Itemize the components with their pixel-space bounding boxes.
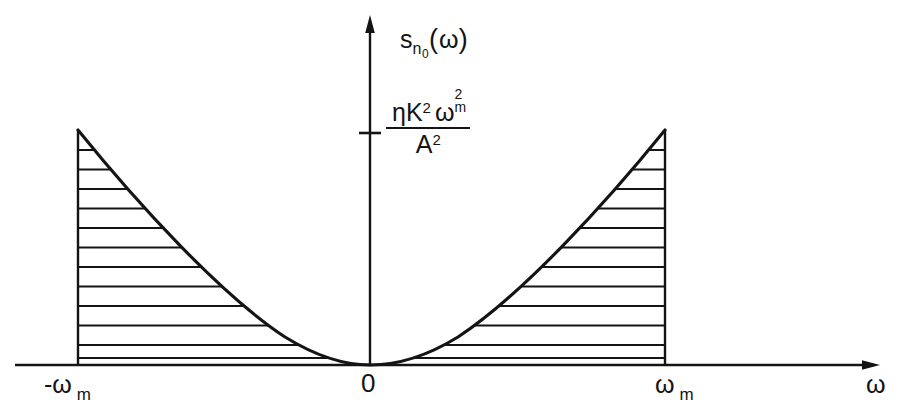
- y-axis-arrowhead: [365, 15, 375, 33]
- pos-omega-subscript-m: m: [680, 385, 694, 404]
- left-hatching: [70, 150, 680, 358]
- x-tick-label-positive-omega-m: ωm: [655, 372, 694, 403]
- psd-subscript: n0: [413, 40, 430, 57]
- right-hatching: [60, 150, 672, 358]
- omega-symbol: ω: [435, 98, 455, 126]
- peak-value-fraction: ηK2ω2m A2: [386, 96, 470, 157]
- neg-omega-symbol: ω: [52, 370, 72, 398]
- omega-m-squared: ω2m: [435, 96, 465, 125]
- psd-argument-omega: ω: [439, 25, 459, 53]
- axes-group: [15, 15, 880, 370]
- omega-subscript-m: m: [454, 100, 466, 114]
- peak-value-denominator: A2: [386, 131, 470, 157]
- gain-k-symbol: K: [406, 98, 423, 126]
- eta-symbol: η: [392, 98, 406, 126]
- x-tick-label-negative-omega-m: -ωm: [44, 372, 91, 403]
- gain-k-exponent: 2: [423, 99, 431, 116]
- amplitude-a-exponent: 2: [432, 131, 440, 148]
- pos-omega-symbol: ω: [655, 370, 675, 398]
- peak-value-numerator: ηK2ω2m: [386, 96, 470, 126]
- psd-subscript-n: n: [413, 40, 422, 57]
- psd-plot-svg: [0, 0, 901, 405]
- fraction-bar: [386, 127, 470, 129]
- amplitude-a-symbol: A: [416, 130, 433, 158]
- x-axis-arrowhead: [862, 360, 880, 370]
- psd-symbol: s: [400, 25, 413, 53]
- neg-omega-subscript-m: m: [77, 385, 91, 404]
- x-tick-label-origin: 0: [361, 370, 375, 396]
- psd-close-paren: ): [459, 24, 469, 54]
- psd-open-paren: (: [429, 24, 439, 54]
- figure-canvas: sn0(ω) ηK2ω2m A2 -ωm 0 ωm ω: [0, 0, 901, 405]
- x-axis-label: ω: [866, 372, 886, 397]
- peak-value-label: ηK2ω2m A2: [386, 96, 470, 157]
- y-axis-quantity-label: sn0(ω): [400, 26, 469, 60]
